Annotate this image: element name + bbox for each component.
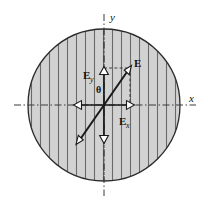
figure-canvas: y x E E y E x θ	[0, 0, 208, 210]
x-axis-label: x	[188, 92, 194, 104]
vector-Ex-label-subscript: x	[125, 121, 130, 130]
angle-theta-label: θ	[96, 84, 101, 95]
vector-E-label: E	[134, 57, 141, 69]
vector-Ey-label-subscript: y	[89, 75, 94, 84]
y-axis-label: y	[109, 11, 115, 23]
physics-vector-diagram: y x E E y E x θ	[0, 0, 208, 210]
